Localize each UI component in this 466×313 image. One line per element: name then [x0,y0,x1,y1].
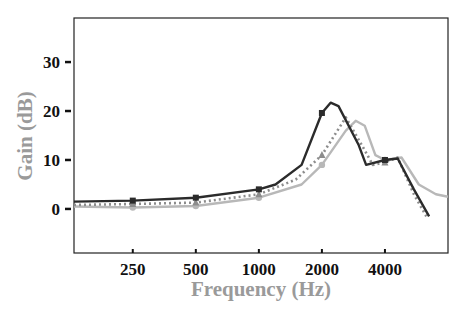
data-point-dark-solid [256,186,262,192]
data-point-light-solid [319,162,325,168]
data-point-dark-solid [319,110,325,116]
data-point-dark-solid [130,198,136,204]
data-point-gray-dotted [318,151,325,158]
series-line-light-solid [74,121,448,208]
data-point-dark-solid [193,195,199,201]
gain-frequency-chart: 250500100020004000 0102030 Frequency (Hz… [0,0,466,313]
plot-frame [74,18,448,253]
y-axis-title: Gain (dB) [13,91,37,180]
data-point-dark-solid [382,157,388,163]
y-axis: 0102030 [43,53,71,219]
x-axis-title: Frequency (Hz) [191,277,331,301]
y-tick-label: 10 [43,151,60,170]
y-tick-label: 30 [43,53,60,72]
y-tick-label: 20 [43,102,60,121]
x-tick-label: 4000 [368,260,402,279]
x-tick-label: 250 [120,260,146,279]
y-tick-label: 0 [52,200,61,219]
series-layer [74,103,448,217]
